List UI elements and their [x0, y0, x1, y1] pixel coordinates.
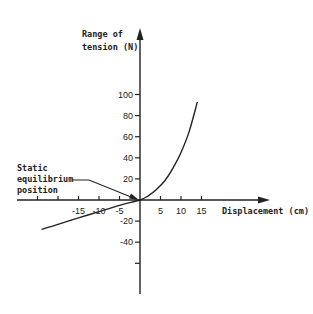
annotation-line3: position — [17, 185, 58, 195]
y-tick-label: 60 — [123, 132, 133, 142]
x-tick-label: 15 — [196, 206, 206, 216]
y-tick-label: 100 — [118, 90, 133, 100]
y-tick-label: 40 — [123, 153, 133, 163]
axes — [17, 28, 270, 294]
x-tick-label: 5 — [158, 206, 163, 216]
static-equilibrium-annotation: Static equilibrium position — [17, 163, 139, 200]
y-tick-label: 80 — [123, 111, 133, 121]
y-tick-label: -40 — [120, 237, 133, 247]
x-axis-label: Displacement (cm) — [222, 206, 309, 216]
x-tick-label: -15 — [72, 206, 85, 216]
annotation-line1: Static — [17, 163, 48, 173]
y-tick-label: 20 — [123, 174, 133, 184]
y-tick-label: -20 — [120, 216, 133, 226]
y-ticks: 10080604020-20-40 — [118, 90, 140, 264]
y-axis-label-line1: Range of — [82, 29, 123, 39]
y-axis-arrow-icon — [137, 28, 144, 40]
x-tick-label: -5 — [115, 206, 123, 216]
x-tick-label: 10 — [176, 206, 186, 216]
x-ticks: -15-10-551015 — [38, 196, 207, 216]
tension-displacement-chart: 10080604020-20-40 -15-10-551015 Range of… — [0, 0, 313, 314]
y-axis-label-line2: tension (N) — [82, 42, 138, 52]
x-axis-arrow-icon — [258, 197, 270, 204]
annotation-line2: equilibrium — [17, 174, 73, 184]
annotation-arrow-icon — [129, 194, 139, 201]
